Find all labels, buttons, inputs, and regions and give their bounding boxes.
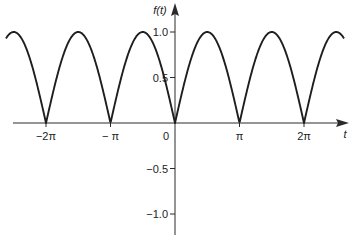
y-tick-label: −0.5: [146, 163, 168, 175]
x-tick-label: 0: [163, 130, 169, 142]
x-tick-label: π: [236, 130, 244, 142]
y-axis-label: f(t): [153, 4, 167, 16]
y-tick-label: 1.0: [153, 26, 168, 38]
x-tick-label: −2π: [36, 130, 57, 142]
chart: −2π− π0π2π t 1.00.5−0.5−1.0 f(t): [0, 0, 354, 244]
x-ticks: −2π− π0π2π: [36, 119, 311, 142]
y-tick-label: −1.0: [146, 208, 168, 220]
x-axis: −2π− π0π2π t: [13, 119, 349, 142]
x-tick-label: 2π: [297, 130, 311, 142]
x-tick-label: − π: [102, 130, 119, 142]
x-axis-label: t: [343, 128, 347, 140]
